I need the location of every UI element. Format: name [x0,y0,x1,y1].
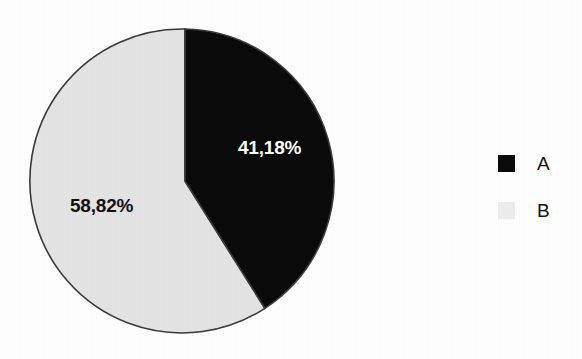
pie-chart-figure: 41,18% 58,82% A B [0,0,582,359]
slice-value-label-b: 58,82% [70,195,133,217]
legend-swatch-b-icon [498,202,515,219]
legend-label-b: B [537,201,550,220]
slice-value-label-a: 41,18% [238,137,301,159]
legend-swatch-a-icon [498,155,515,172]
legend: A B [498,140,578,234]
legend-label-a: A [537,154,550,173]
pie-plot-area: 41,18% 58,82% [0,0,400,359]
legend-item-b[interactable]: B [498,187,578,234]
legend-item-a[interactable]: A [498,140,578,187]
pie-svg [0,0,400,359]
